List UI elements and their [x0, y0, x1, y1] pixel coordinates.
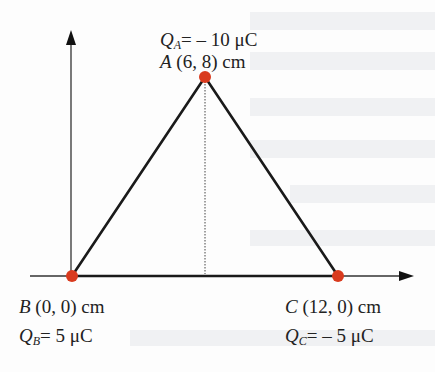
y-axis-arrow-icon	[66, 30, 76, 45]
point-b-label: B (0, 0) cm	[19, 297, 104, 316]
x-axis-arrow-icon	[399, 271, 414, 281]
point-a-label: A (6, 8) cm	[160, 52, 245, 71]
charge-a-label: QA= – 10 μC	[160, 30, 257, 51]
charge-a-dot	[199, 71, 211, 83]
charge-c-label: QC= – 5 μC	[285, 326, 374, 347]
charge-c-dot	[332, 270, 344, 282]
charge-b-dot	[66, 270, 78, 282]
point-c-label: C (12, 0) cm	[285, 297, 381, 316]
charge-b-label: QB= 5 μC	[19, 326, 93, 347]
